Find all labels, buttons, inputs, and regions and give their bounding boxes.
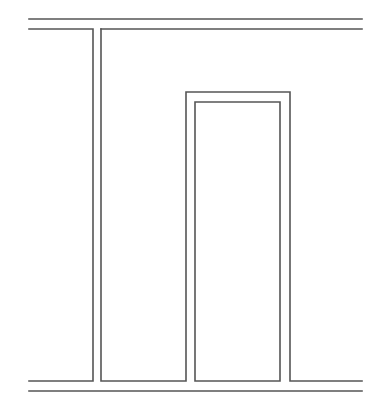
- diagram-outline: [29, 19, 362, 391]
- diagram-canvas: [0, 0, 391, 413]
- notch-inner-outline: [195, 102, 280, 381]
- top-inner-line-left: [29, 29, 93, 381]
- stem-right-and-bottom-left-segment: [101, 29, 362, 381]
